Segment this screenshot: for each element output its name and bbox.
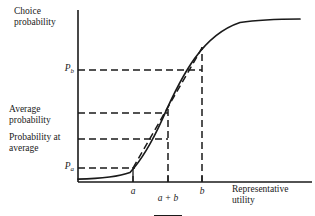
label-average-probability: Average probability	[9, 104, 51, 126]
logistic-choice-curve	[78, 19, 300, 179]
label-p-b-subscript: b	[71, 67, 75, 75]
x-axis-title: Representative utility	[232, 184, 314, 206]
fraction-bar	[154, 215, 182, 216]
label-p-b: Pb	[52, 63, 74, 77]
tick-label-b: b	[195, 186, 209, 197]
label-p-a: Pa	[52, 161, 74, 175]
tick-label-midpoint: a + b 2	[150, 182, 186, 216]
y-axis-title: Choice probability	[14, 6, 56, 28]
choice-probability-diagram: Choice probability Average probability P…	[0, 0, 315, 216]
tick-label-midpoint-numerator: a + b	[150, 193, 186, 203]
label-probability-at-average: Probability at average	[9, 132, 60, 154]
tick-label-a: a	[126, 186, 140, 197]
label-p-a-subscript: a	[71, 165, 75, 173]
